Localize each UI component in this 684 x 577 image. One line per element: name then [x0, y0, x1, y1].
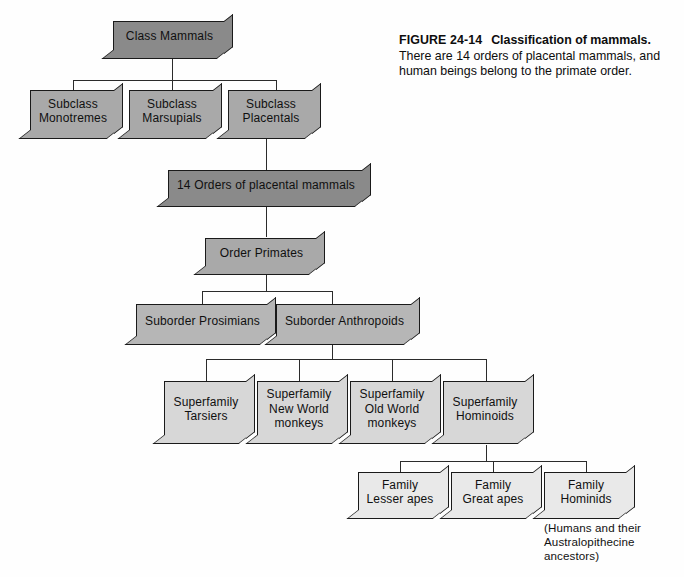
node-order-primates-label: Order Primates [216, 246, 307, 261]
connector-placentals-to-orders [266, 135, 267, 170]
node-family-great-apes-line2: Great apes [463, 492, 524, 506]
connector-family-hominids [586, 461, 587, 472]
figure-title: Classification of mammals. [491, 33, 651, 47]
node-family-hominids-line1: Family [568, 478, 604, 492]
node-subclass-marsupials-line1: Subclass [147, 97, 197, 111]
annotation-hominids-note: (Humans and their Australopithecine ance… [544, 521, 674, 563]
node-superfamily-old-world-monkeys-line2: Old World [365, 402, 419, 416]
node-superfamily-new-world-monkeys[interactable]: SuperfamilyNew Worldmonkeys [257, 381, 341, 437]
annotation-hominids-note-line2: Australopithecine [544, 535, 635, 548]
node-subclass-placentals-line1: Subclass [246, 97, 296, 111]
node-subclass-monotremes-line1: Subclass [48, 97, 98, 111]
node-family-great-apes-line1: Family [475, 478, 511, 492]
node-superfamily-old-world-monkeys-line3: monkeys [367, 416, 416, 430]
node-suborder-prosimians-label: Suborder Prosimians [141, 314, 264, 329]
node-subclass-placentals[interactable]: SubclassPlacentals [228, 90, 314, 132]
connector-superfamily-old-world [392, 359, 393, 381]
node-superfamily-old-world-monkeys-line1: Superfamily [359, 387, 424, 401]
node-superfamily-hominoids-line2: Hominoids [456, 409, 514, 423]
connector-subclass-bus [73, 80, 276, 81]
node-suborder-anthropoids[interactable]: Suborder Anthropoids [276, 304, 413, 338]
connector-subclass-marsupials [172, 80, 173, 90]
connector-superfamily-hominoids [486, 359, 487, 381]
node-suborder-anthropoids-label: Suborder Anthropoids [281, 314, 408, 329]
node-superfamily-hominoids[interactable]: SuperfamilyHominoids [443, 381, 527, 437]
connector-anthropoids-down [332, 344, 333, 359]
node-superfamily-new-world-monkeys-line3: monkeys [274, 416, 323, 430]
connector-subclass-placentals [276, 80, 277, 90]
node-superfamily-tarsiers-line2: Tarsiers [184, 409, 227, 423]
node-family-hominids[interactable]: FamilyHominids [544, 472, 628, 512]
node-superfamily-tarsiers-line1: Superfamily [173, 395, 238, 409]
node-superfamily-hominoids-line1: Superfamily [452, 395, 517, 409]
connector-suborder-bus [202, 291, 332, 292]
node-suborder-prosimians[interactable]: Suborder Prosimians [136, 304, 269, 338]
node-subclass-marsupials-line2: Marsupials [142, 111, 202, 125]
node-superfamily-new-world-monkeys-line1: Superfamily [266, 387, 331, 401]
connector-family-great-apes [493, 461, 494, 472]
connector-superfamily-bus [206, 359, 486, 360]
node-family-lesser-apes-line1: Family [382, 478, 418, 492]
figure-number: FIGURE 24-14 [399, 33, 482, 47]
node-subclass-monotremes[interactable]: SubclassMonotremes [30, 90, 116, 132]
annotation-hominids-note-line3: ancestors) [544, 549, 599, 562]
connector-class-down [172, 58, 173, 80]
figure-body-text: There are 14 orders of placental mammals… [399, 49, 660, 79]
node-family-lesser-apes[interactable]: FamilyLesser apes [358, 472, 442, 512]
connector-superfamily-tarsiers [206, 359, 207, 381]
node-family-great-apes[interactable]: FamilyGreat apes [451, 472, 535, 512]
annotation-hominids-note-line1: (Humans and their [544, 521, 641, 534]
node-superfamily-new-world-monkeys-line2: New World [269, 402, 329, 416]
node-orders-placental-mammals-label: 14 Orders of placental mammals [173, 178, 359, 193]
connector-suborder-prosimians [202, 291, 203, 304]
node-order-primates[interactable]: Order Primates [205, 238, 318, 268]
connector-superfamily-new-world [299, 359, 300, 381]
node-class-mammals-label: Class Mammals [122, 29, 217, 44]
node-subclass-marsupials[interactable]: SubclassMarsupials [129, 90, 215, 132]
node-subclass-placentals-line2: Placentals [243, 111, 300, 125]
connector-hominoids-down [486, 445, 487, 461]
connector-suborder-anthropoids [332, 291, 333, 304]
node-family-lesser-apes-line2: Lesser apes [366, 492, 433, 506]
figure-caption: FIGURE 24-14Classification of mammals. T… [399, 33, 671, 80]
node-family-hominids-line2: Hominids [560, 492, 611, 506]
node-superfamily-tarsiers[interactable]: SuperfamilyTarsiers [164, 381, 248, 437]
connector-subclass-monotremes [73, 80, 74, 90]
node-subclass-monotremes-line2: Monotremes [39, 111, 107, 125]
node-class-mammals[interactable]: Class Mammals [113, 21, 226, 52]
figure-canvas: FIGURE 24-14Classification of mammals. T… [0, 0, 684, 577]
node-orders-placental-mammals[interactable]: 14 Orders of placental mammals [168, 170, 364, 200]
connector-family-lesser-apes [400, 461, 401, 472]
node-superfamily-old-world-monkeys[interactable]: SuperfamilyOld Worldmonkeys [350, 381, 434, 437]
connector-orders-to-primates [266, 203, 267, 237]
